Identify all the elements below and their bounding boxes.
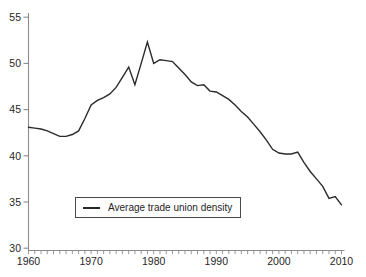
- legend: Average trade union density: [75, 197, 241, 218]
- legend-line-sample-icon: [83, 207, 100, 209]
- density-line: [29, 42, 342, 205]
- y-tick-label: 35: [9, 196, 21, 208]
- legend-label: Average trade union density: [108, 202, 232, 214]
- y-tick-label: 40: [9, 150, 21, 162]
- y-tick-label: 30: [9, 242, 21, 254]
- x-tick-label: 1980: [142, 255, 166, 267]
- y-tick-label: 50: [9, 57, 21, 69]
- plot-area: 555045403530196019701980199020002010: [0, 0, 366, 277]
- y-tick-label: 45: [9, 103, 21, 115]
- y-tick-label: 55: [9, 11, 21, 23]
- x-tick-label: 2010: [330, 255, 354, 267]
- x-tick-label: 1960: [17, 255, 41, 267]
- x-tick-label: 1990: [205, 255, 229, 267]
- x-tick-label: 2000: [267, 255, 291, 267]
- trade-union-density-chart: 555045403530196019701980199020002010 Ave…: [0, 0, 366, 277]
- x-tick-label: 1970: [79, 255, 103, 267]
